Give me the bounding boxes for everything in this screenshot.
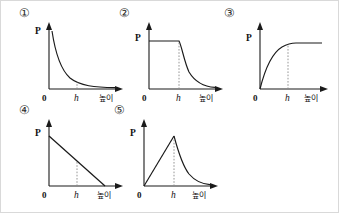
curve-decay-5 [174,136,210,185]
x-axis-label-1: 높이 [99,95,113,103]
plot-area-4: P 0 h 높이 [27,118,127,192]
x-axis-label-5: 높이 [192,192,206,200]
x-axis-arrow-2 [215,86,223,92]
h-tick-label-3: h [285,94,290,104]
x-axis-label-2: 높이 [199,95,213,103]
plot-area-1: P 0 h 높이 [27,21,127,95]
chart-panel-3: ③ P 0 h 높이 [224,7,334,99]
curve-saturating-3 [260,43,322,89]
y-axis-label-3: P [246,34,252,44]
curve-linear-rise-5 [144,136,174,186]
y-axis-arrow-1 [46,22,52,30]
curve-plateau-decay-2 [149,41,215,87]
h-tick-label-4: h [74,191,79,201]
panel-number-5: ⑤ [114,104,125,116]
panel-number-1: ① [19,7,30,19]
y-axis-arrow-4 [46,119,52,127]
x-axis-label-4: 높이 [97,192,111,200]
h-tick-label-5: h [171,191,176,201]
plot-area-3: P 0 h 높이 [238,21,338,95]
panel-number-4: ④ [19,104,30,116]
h-tick-label-2: h [176,94,181,104]
plot-area-5: P 0 h 높이 [122,118,222,192]
y-axis-label-1: P [35,27,41,37]
figure-frame: ① P 0 h 높이 ② [0,0,339,213]
panel-number-2: ② [119,7,130,19]
origin-label-5: 0 [137,191,142,200]
y-axis-label-5: P [130,129,136,139]
chart-panel-4: ④ P 0 h 높이 [19,104,129,196]
plot-svg-3 [238,21,338,95]
y-axis-arrow-5 [141,119,147,127]
y-axis-arrow-2 [146,22,152,30]
plot-svg-5 [122,118,222,192]
origin-label-2: 0 [142,94,147,103]
y-axis-label-2: P [135,34,141,44]
x-axis-label-3: 높이 [304,95,318,103]
y-axis-arrow-3 [257,22,263,30]
chart-panel-2: ② P 0 h 높이 [119,7,229,99]
curve-decay-1 [52,31,115,88]
x-axis-arrow-5 [210,183,218,189]
plot-area-2: P 0 h 높이 [127,21,227,95]
origin-label-1: 0 [42,94,47,103]
h-tick-label-1: h [74,94,79,104]
plot-svg-1 [27,21,127,95]
chart-panel-1: ① P 0 h 높이 [19,7,129,99]
origin-label-3: 0 [253,94,258,103]
panel-number-3: ③ [224,7,235,19]
plot-svg-4 [27,118,127,192]
origin-label-4: 0 [42,191,47,200]
y-axis-label-4: P [35,129,41,139]
chart-panel-5: ⑤ P 0 h 높이 [114,104,224,196]
x-axis-arrow-3 [320,86,328,92]
plot-svg-2 [127,21,227,95]
